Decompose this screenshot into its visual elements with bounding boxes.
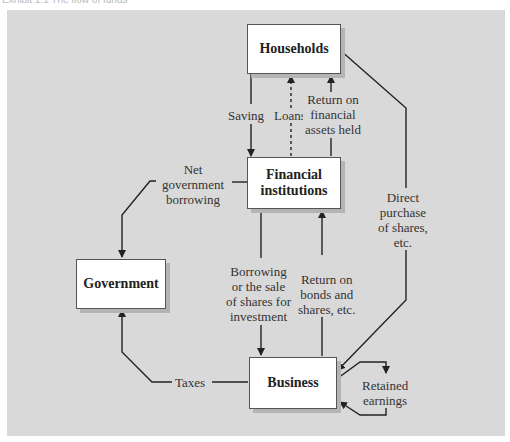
node-financial-institutions: Financial institutions <box>247 157 341 209</box>
label-retained-earnings: Retained earnings <box>360 378 410 408</box>
label-net-gov-borrowing: Net government borrowing <box>160 162 226 207</box>
node-business: Business <box>249 357 337 409</box>
label-return-bonds: Return on bonds and shares, etc. <box>296 272 357 317</box>
node-government: Government <box>76 259 166 309</box>
node-households: Households <box>247 24 341 74</box>
label-direct-purchase: Direct purchase of shares, etc. <box>376 190 430 250</box>
label-return-financial: Return on financial assets held <box>303 92 363 137</box>
label-borrowing-sale: Borrowing or the sale of shares for inve… <box>224 264 293 324</box>
label-taxes: Taxes <box>173 375 207 390</box>
label-saving: Saving <box>226 108 266 123</box>
